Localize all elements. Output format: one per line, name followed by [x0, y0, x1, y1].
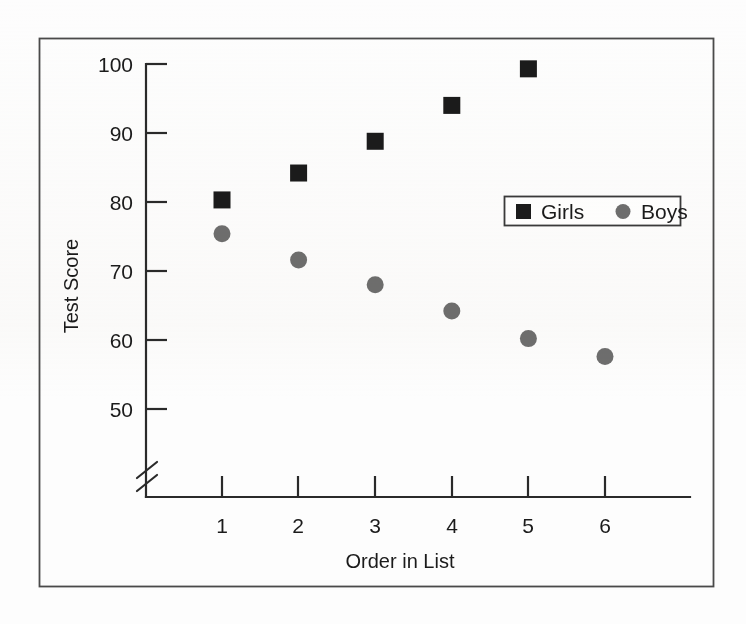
legend-label-girls: Girls [541, 200, 584, 223]
x-tick-label-5: 5 [522, 514, 534, 537]
y-tick-label-100: 100 [98, 53, 133, 76]
x-axis-title: Order in List [346, 550, 455, 572]
x-tick-label-6: 6 [599, 514, 611, 537]
x-tick-label-2: 2 [292, 514, 304, 537]
data-point-boys-6 [597, 348, 614, 365]
y-axis-title: Test Score [60, 239, 82, 333]
data-point-girls-5 [520, 60, 537, 77]
data-point-boys-5 [520, 330, 537, 347]
data-point-girls-1 [214, 191, 231, 208]
y-tick-label-80: 80 [110, 191, 133, 214]
data-point-girls-2 [290, 165, 307, 182]
chart-legend: Girls Boys [505, 197, 688, 226]
data-point-boys-1 [214, 225, 231, 242]
legend-marker-boys-icon [616, 204, 631, 219]
data-point-boys-4 [443, 303, 460, 320]
y-tick-label-70: 70 [110, 260, 133, 283]
data-point-girls-3 [367, 133, 384, 150]
y-tick-label-50: 50 [110, 398, 133, 421]
data-point-girls-4 [443, 97, 460, 114]
scatter-chart-figure: 100 90 80 70 60 50 Test Score 1 2 3 4 5 … [0, 0, 746, 624]
chart-svg: 100 90 80 70 60 50 Test Score 1 2 3 4 5 … [0, 0, 746, 624]
data-point-boys-2 [290, 251, 307, 268]
legend-marker-girls-icon [516, 204, 531, 219]
legend-label-boys: Boys [641, 200, 688, 223]
x-tick-label-3: 3 [369, 514, 381, 537]
data-point-boys-3 [367, 276, 384, 293]
x-tick-label-1: 1 [216, 514, 228, 537]
y-tick-label-90: 90 [110, 122, 133, 145]
y-tick-label-60: 60 [110, 329, 133, 352]
x-tick-label-4: 4 [446, 514, 458, 537]
